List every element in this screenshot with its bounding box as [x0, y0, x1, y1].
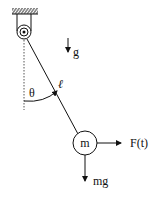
gravity-label: g	[73, 45, 79, 59]
force-label: F(t)	[130, 136, 148, 150]
mass-label: m	[80, 136, 90, 150]
weight-label: mg	[93, 174, 108, 188]
pulley-pivot-icon	[17, 14, 31, 39]
angle-label: θ	[29, 86, 35, 100]
length-label: ℓ	[58, 77, 63, 91]
pendulum-diagram: g θ ℓ m F(t) mg	[0, 0, 154, 197]
hatched-ceiling-icon	[12, 8, 38, 14]
